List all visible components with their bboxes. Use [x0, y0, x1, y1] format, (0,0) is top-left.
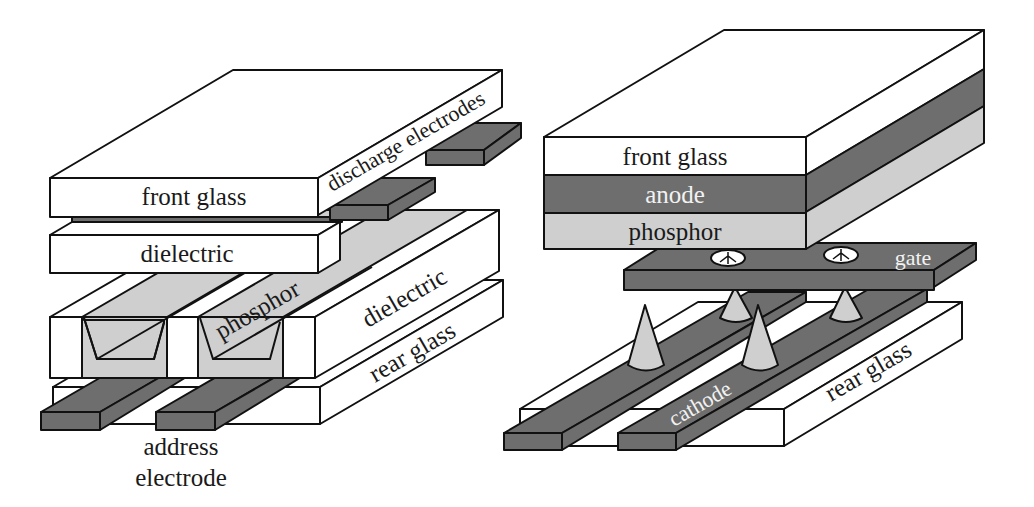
fed-front-glass-label: front glass — [623, 143, 728, 170]
pdp-diagram: front glass discharge electrodes dielect… — [41, 70, 521, 491]
fed-diagram: front glass anode phosphor gate cathode … — [504, 30, 984, 450]
display-structure-diagram: front glass discharge electrodes dielect… — [0, 0, 1034, 507]
pdp-address-label-line2: electrode — [135, 464, 227, 491]
pdp-front-glass-label: front glass — [142, 183, 247, 210]
pdp-address-label-line1: address — [144, 433, 219, 460]
fed-anode-label: anode — [645, 181, 705, 208]
fed-front-stack — [544, 30, 984, 249]
pdp-front-glass — [50, 70, 502, 217]
fed-phosphor-label: phosphor — [628, 218, 722, 245]
fed-gate-label: gate — [895, 245, 932, 270]
pdp-dielectric-upper-label: dielectric — [141, 240, 234, 267]
